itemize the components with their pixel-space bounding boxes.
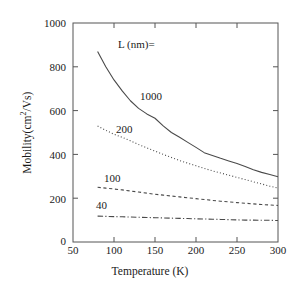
data-curves xyxy=(98,51,278,220)
ytick-label-800: 800 xyxy=(34,62,66,73)
xtick-label-50: 50 xyxy=(58,245,88,256)
legend-header: L (nm)= xyxy=(118,39,155,50)
curve-series-40 xyxy=(98,216,278,220)
curve-label-200: 200 xyxy=(116,124,133,135)
y-axis-title-tail: /Vs) xyxy=(21,92,33,112)
ytick-label-1000: 1000 xyxy=(34,18,66,29)
curve-label-40: 40 xyxy=(96,200,107,211)
y-axis-title-exponent: 2 xyxy=(19,112,28,116)
curve-series-200 xyxy=(98,126,278,188)
ytick-label-200: 200 xyxy=(34,194,66,205)
mobility-vs-temperature-figure: 1000 800 600 400 200 0 50 100 150 200 25… xyxy=(0,0,300,290)
xtick-label-250: 250 xyxy=(222,245,252,256)
x-axis-title: Temperature (K) xyxy=(0,266,300,278)
xtick-label-300: 300 xyxy=(263,245,293,256)
xtick-label-100: 100 xyxy=(99,245,129,256)
ytick-label-400: 400 xyxy=(34,150,66,161)
curve-series-1000 xyxy=(98,51,278,176)
xtick-label-200: 200 xyxy=(181,245,211,256)
curve-label-100: 100 xyxy=(104,173,121,184)
y-axis-title-main: Mobility(cm xyxy=(21,116,33,174)
xtick-label-150: 150 xyxy=(140,245,170,256)
ytick-label-600: 600 xyxy=(34,106,66,117)
curve-series-100 xyxy=(98,187,278,205)
y-axis-title: Mobility(cm2/Vs) xyxy=(20,53,33,213)
curve-label-1000: 1000 xyxy=(140,91,162,102)
